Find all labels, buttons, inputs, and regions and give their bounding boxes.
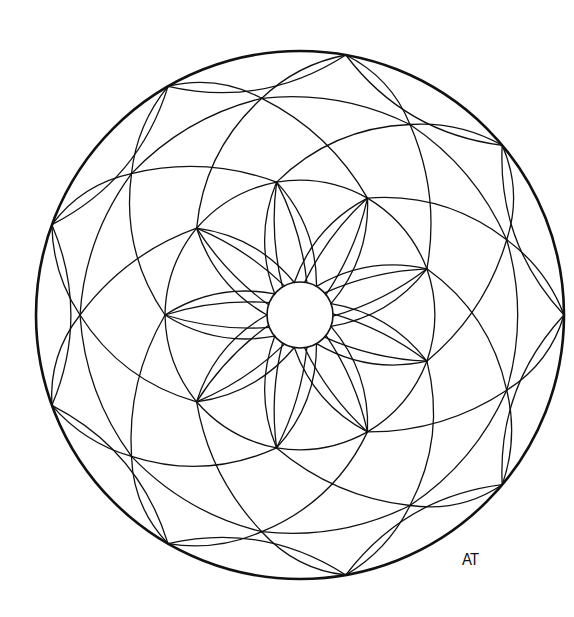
spiral-arc [410, 361, 434, 505]
inner-web-arc [197, 402, 277, 448]
mid-ring-arc [410, 125, 507, 240]
inner-web-arc [165, 315, 197, 402]
mid-ring-arc [80, 315, 132, 456]
mandala-artwork [0, 0, 574, 617]
outer-scallop-arc [346, 55, 502, 145]
mid-ring-arc [80, 174, 132, 315]
spiral-arc [427, 240, 507, 361]
spiral-arc [427, 269, 507, 390]
mid-ring-arc [410, 390, 507, 505]
mid-ring-arc [262, 506, 410, 534]
inner-web-arc [197, 182, 277, 228]
outer-scallop-arc [502, 315, 564, 485]
inner-web-arc [165, 228, 197, 315]
outer-scallop-arc [346, 485, 502, 575]
spiral-arc [410, 125, 431, 269]
petal-line [197, 228, 285, 286]
center-circle [267, 282, 333, 348]
outer-circle [36, 51, 564, 579]
outer-web-arc [168, 82, 262, 98]
spiral-arc [131, 315, 165, 456]
spiral-arc [80, 228, 197, 315]
inner-web-arc [368, 361, 427, 432]
petal-line [326, 198, 368, 295]
inner-web-arc [277, 432, 368, 450]
petal-line [197, 228, 269, 305]
mid-ring-arc [132, 456, 262, 531]
spiral-arc [80, 315, 197, 402]
spiral-arc [277, 448, 410, 506]
artist-signature: AT [462, 549, 478, 569]
mid-ring-arc [132, 98, 262, 173]
petal-line [197, 344, 285, 402]
inner-web-arc [427, 269, 435, 361]
inner-web-arc [277, 180, 368, 198]
spiral-arc [132, 166, 277, 182]
spiral-arc [277, 125, 410, 183]
mandala-line-group [52, 55, 564, 575]
petal-line [197, 325, 269, 402]
petal-line [274, 182, 282, 287]
inner-web-arc [368, 198, 427, 269]
petal-line [165, 302, 269, 315]
spiral-arc [368, 390, 507, 432]
petal-line [274, 343, 282, 448]
spiral-arc [132, 448, 277, 467]
mid-ring-arc [507, 240, 518, 390]
spiral-arc [368, 197, 507, 239]
petal-line [326, 335, 368, 432]
petal-line [165, 315, 269, 328]
